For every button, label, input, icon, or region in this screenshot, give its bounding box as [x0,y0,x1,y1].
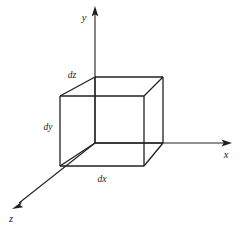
z-axis-arrowhead [12,201,23,209]
dx-label: dx [98,174,108,184]
coordinate-axes-cube-diagram: y x z [0,0,243,227]
y-axis: y [81,6,99,143]
z-axis-line [19,143,95,203]
z-axis-label: z [8,213,13,224]
cube-edge-depth-top-right [144,77,163,96]
dz-label: dz [68,70,77,80]
cube-edge-depth-top-left [60,77,95,96]
cube-edge-depth-bottom-left [60,143,95,166]
axes-group: y x z [8,6,232,224]
differential-volume-element-figure: y x z [0,0,243,227]
cube-edge-depth-bottom-right [144,143,163,166]
x-axis-label: x [223,149,229,160]
cube-group [60,77,163,166]
dy-label: dy [44,122,54,132]
z-axis: z [8,143,95,224]
y-axis-label: y [81,12,87,23]
